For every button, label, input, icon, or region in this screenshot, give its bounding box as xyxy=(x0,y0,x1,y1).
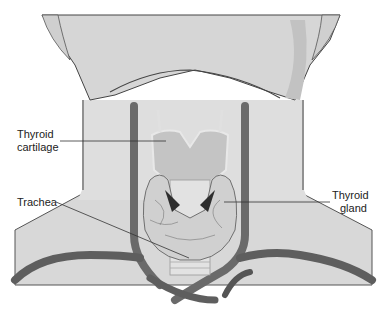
label-thyroid-gland-line1: Thyroid xyxy=(332,189,369,202)
label-trachea: Trachea xyxy=(17,196,57,209)
label-thyroid-gland-line2: gland xyxy=(332,202,369,215)
label-thyroid-cartilage: Thyroid cartilage xyxy=(17,128,59,154)
label-thyroid-cartilage-line2: cartilage xyxy=(17,141,59,154)
label-thyroid-gland: Thyroid gland xyxy=(332,189,369,215)
label-thyroid-cartilage-line1: Thyroid xyxy=(17,128,59,141)
neck-anatomy-diagram xyxy=(0,0,385,318)
